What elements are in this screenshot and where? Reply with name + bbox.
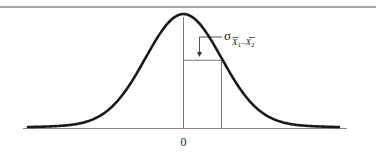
sigma-subscript: X1–X2 <box>231 37 255 49</box>
x-tick-label-zero: 0 <box>181 135 187 149</box>
subscript-2: 2 <box>251 41 255 49</box>
arrow-head-icon <box>197 52 202 57</box>
sigma-label: σ X1–X2 <box>224 28 255 49</box>
sigma-symbol: σ <box>224 28 231 43</box>
normal-curve-diagram: σ X1–X2 0 <box>0 0 376 155</box>
